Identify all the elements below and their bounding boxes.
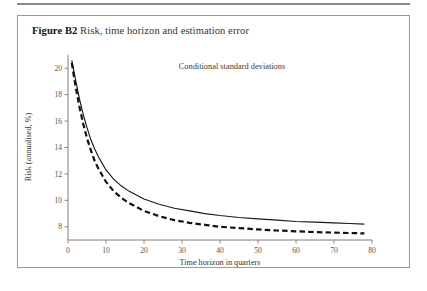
risk-horizon-chart: 8101214161820 01020304050607080 Conditio… <box>17 15 410 268</box>
x-tick-label: 10 <box>102 246 110 255</box>
y-tick-label: 14 <box>54 143 62 152</box>
x-tick-label: 60 <box>292 246 300 255</box>
x-tick-label: 70 <box>330 246 338 255</box>
solid-series-line <box>72 60 365 224</box>
x-tick-label: 0 <box>66 246 70 255</box>
y-tick-label: 20 <box>54 64 62 73</box>
x-tick-label: 50 <box>254 246 262 255</box>
data-series-layer <box>72 60 365 233</box>
x-tick-label: 40 <box>216 246 224 255</box>
figure-container: Figure B2 Risk, time horizon and estimat… <box>0 0 427 291</box>
y-tick-label: 8 <box>58 222 62 231</box>
x-tick-label: 20 <box>140 246 148 255</box>
chart-annotation: Conditional standard deviations <box>179 62 286 71</box>
y-axis-label: Risk (annualised, %) <box>24 113 33 182</box>
x-tick-label: 80 <box>368 246 376 255</box>
top-rule-divider <box>17 3 410 5</box>
y-tick-label: 18 <box>54 90 62 99</box>
x-axis-ticks: 01020304050607080 <box>66 240 376 255</box>
x-axis-label: Time horizon in quarters <box>180 258 261 267</box>
plot-axes <box>68 55 372 240</box>
y-axis-ticks: 8101214161820 <box>54 64 68 232</box>
x-tick-label: 30 <box>178 246 186 255</box>
y-tick-label: 16 <box>54 117 62 126</box>
y-tick-label: 10 <box>54 196 62 205</box>
dashed-series-line <box>72 63 365 233</box>
y-tick-label: 12 <box>54 170 62 179</box>
